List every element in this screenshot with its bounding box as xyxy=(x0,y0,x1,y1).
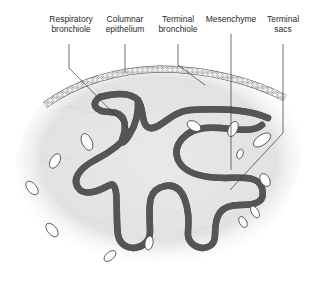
label-columnar-epithelium: Columnar epithelium xyxy=(101,15,149,34)
label-respiratory-bronchiole: Respiratory bronchiole xyxy=(46,15,96,34)
label-terminal-sacs: Terminal sacs xyxy=(262,15,304,34)
label-terminal-bronchiole: Terminal bronchiole xyxy=(154,15,202,34)
label-mesenchyme: Mesenchyme xyxy=(204,15,258,25)
lung-development-diagram xyxy=(0,0,310,285)
